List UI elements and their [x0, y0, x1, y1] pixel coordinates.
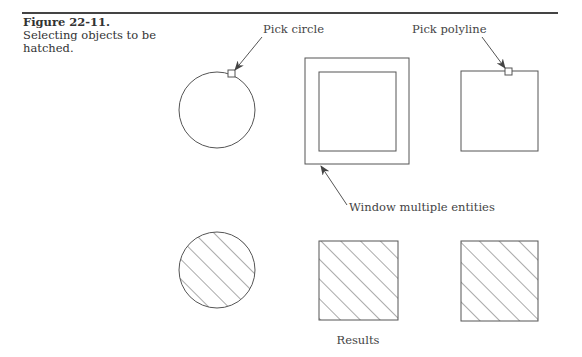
pick-circle-label: Pick circle	[263, 22, 324, 36]
nested-squares-object	[305, 58, 409, 164]
pick-box-polyline	[505, 68, 512, 75]
pick-polyline-arrow	[482, 37, 505, 68]
hatched-square-polyline	[461, 241, 538, 321]
polyline-object	[461, 71, 538, 151]
hatch-figure: Pick circle Window multiple entities Pic…	[0, 0, 582, 357]
pick-box-circle	[228, 70, 235, 77]
hatched-circle	[179, 232, 255, 308]
pick-polyline-label: Pick polyline	[412, 22, 487, 36]
circle-object	[179, 72, 255, 148]
window-arrow	[321, 166, 347, 205]
results-label: Results	[337, 333, 380, 347]
hatched-square-window	[319, 241, 398, 320]
window-multiple-label: Window multiple entities	[349, 200, 495, 214]
pick-circle-arrow	[235, 37, 262, 70]
